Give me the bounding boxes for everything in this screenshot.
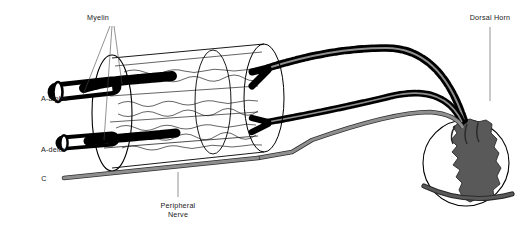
nerve-diagram-canvas: Myelin A-alpha A-delta C Peripheral Nerv… xyxy=(0,0,526,232)
c-fiber-label: C xyxy=(41,174,46,183)
peripheral-nerve-label-line2: Nerve xyxy=(168,210,188,219)
nerve-diagram-figure: Myelin A-alpha A-delta C Peripheral Nerv… xyxy=(0,0,526,232)
a-alpha-label: A-alpha xyxy=(41,94,67,103)
myelin-label: Myelin xyxy=(87,13,109,22)
a-delta-label: A-delta xyxy=(41,145,65,154)
dorsal-horn-label: Dorsal Horn xyxy=(470,13,511,22)
peripheral-nerve-label-line1: Peripheral xyxy=(161,201,196,210)
